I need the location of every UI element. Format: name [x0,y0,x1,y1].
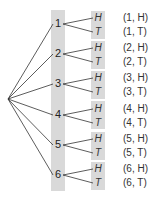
coin-h-6: H [91,163,105,174]
coin-h-5: H [91,133,105,144]
outcome-4t: (4, T) [123,117,147,128]
outcome-6t: (6, T) [123,177,147,188]
die-4: 4 [51,108,65,120]
outcome-5t: (5, T) [123,147,147,158]
coin-t-4: T [91,117,105,128]
outcome-2t: (2, T) [123,56,147,67]
coin-h-2: H [91,42,105,53]
coin-h-4: H [91,103,105,114]
die-6: 6 [51,168,65,180]
coin-h-1: H [91,12,105,23]
tree-diagram: 1 2 3 4 5 6 H T H T H T H T H T H T (1, … [0,0,160,202]
outcome-4h: (4, H) [123,103,148,114]
outcome-6h: (6, H) [123,163,148,174]
die-1: 1 [51,17,65,29]
coin-t-1: T [91,26,105,37]
coin-h-3: H [91,72,105,83]
die-3: 3 [51,77,65,89]
outcome-1h: (1, H) [123,12,148,23]
outcome-2h: (2, H) [123,42,148,53]
die-5: 5 [51,138,65,150]
coin-t-5: T [91,147,105,158]
outcome-5h: (5, H) [123,133,148,144]
die-2: 2 [51,47,65,59]
outcome-3t: (3, T) [123,86,147,97]
coin-t-3: T [91,86,105,97]
coin-t-2: T [91,56,105,67]
outcome-1t: (1, T) [123,26,147,37]
coin-t-6: T [91,177,105,188]
outcome-3h: (3, H) [123,72,148,83]
